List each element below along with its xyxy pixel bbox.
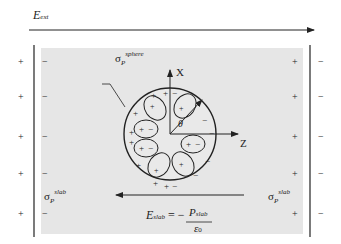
surface-plus: + bbox=[129, 137, 134, 147]
sigma-superscript: slab bbox=[278, 188, 290, 196]
external-field-label: Eext bbox=[33, 8, 49, 23]
right-inner-charge: + bbox=[292, 169, 298, 179]
right-outer-charge: − bbox=[318, 92, 324, 102]
dipole-minus: − bbox=[195, 139, 200, 149]
surface-plus: + bbox=[133, 108, 138, 118]
dipole-minus: − bbox=[148, 143, 153, 153]
surface-plus: + bbox=[153, 178, 158, 188]
left-slab-charge-label: σPslab bbox=[44, 190, 66, 202]
fraction-numerator: Pslab bbox=[189, 206, 207, 218]
z-axis-label: Z bbox=[240, 137, 247, 149]
sigma-subscript: P bbox=[274, 197, 278, 205]
dipole-minus: − bbox=[148, 124, 153, 134]
left-inner-charge: − bbox=[42, 57, 48, 67]
left-inner-charge: − bbox=[42, 169, 48, 179]
left-outer-charge: + bbox=[18, 132, 24, 142]
left-inner-charge: − bbox=[42, 209, 48, 219]
left-outer-charge: + bbox=[18, 57, 24, 67]
slab-field-label: Eslab = − bbox=[146, 208, 185, 223]
right-outer-charge: − bbox=[318, 169, 324, 179]
right-inner-charge: + bbox=[292, 132, 298, 142]
dipole-plus: + bbox=[154, 166, 159, 176]
sigma-subscript: P bbox=[50, 197, 54, 205]
dipole-plus: + bbox=[186, 139, 191, 149]
polarization-symbol: P bbox=[189, 206, 196, 218]
dipole-plus: + bbox=[179, 160, 184, 170]
epsilon-subscript: 0 bbox=[198, 226, 202, 234]
surface-plus: + bbox=[136, 160, 141, 170]
surface-minus: − bbox=[172, 181, 177, 191]
left-inner-charge: − bbox=[42, 132, 48, 142]
fraction-denominator: ε0 bbox=[194, 222, 202, 234]
surface-minus: − bbox=[172, 88, 177, 98]
left-outer-charge: + bbox=[18, 169, 24, 179]
left-outer-charge: + bbox=[18, 209, 24, 219]
surface-plus: + bbox=[151, 90, 156, 100]
slab-field-subscript: slab bbox=[153, 213, 165, 221]
right-inner-charge: + bbox=[292, 92, 298, 102]
surface-plus: + bbox=[129, 127, 134, 137]
surface-minus: − bbox=[193, 170, 198, 180]
sigma-superscript: slab bbox=[54, 188, 66, 196]
right-outer-charge: − bbox=[318, 132, 324, 142]
surface-minus: − bbox=[209, 128, 214, 138]
surface-minus: − bbox=[205, 156, 210, 166]
surface-minus: − bbox=[202, 115, 207, 125]
polarization-subscript: slab bbox=[196, 210, 208, 218]
right-outer-charge: − bbox=[318, 57, 324, 67]
left-outer-charge: + bbox=[18, 92, 24, 102]
right-inner-charge: + bbox=[292, 57, 298, 67]
right-slab-charge-label: σPslab bbox=[268, 190, 290, 202]
dipole-plus: + bbox=[179, 104, 184, 114]
angle-label: θ bbox=[178, 118, 183, 129]
sigma-superscript: sphere bbox=[125, 50, 143, 58]
left-inner-charge: − bbox=[42, 92, 48, 102]
external-field-subscript: ext bbox=[40, 13, 48, 21]
right-outer-charge: − bbox=[318, 209, 324, 219]
surface-plus: + bbox=[164, 181, 169, 191]
x-axis-label: X bbox=[176, 66, 184, 78]
right-inner-charge: + bbox=[292, 209, 298, 219]
surface-plus: + bbox=[163, 88, 168, 98]
dipole-plus: + bbox=[150, 102, 155, 112]
equals-minus: = − bbox=[168, 208, 185, 222]
dipole-plus: + bbox=[139, 124, 144, 134]
sphere-charge-label: σPsphere bbox=[115, 52, 144, 64]
dipole-plus: + bbox=[139, 143, 144, 153]
sigma-subscript: P bbox=[121, 59, 125, 67]
